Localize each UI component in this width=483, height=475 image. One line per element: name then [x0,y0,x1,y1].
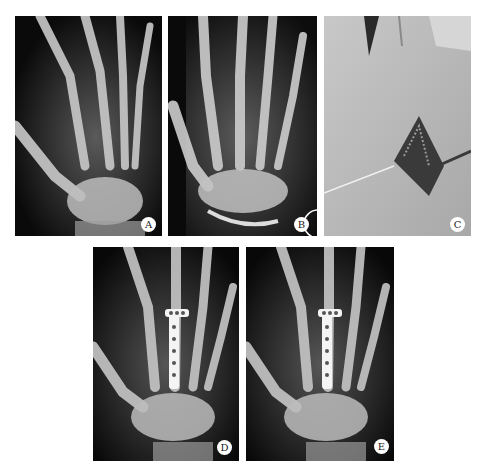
panel-d-radiograph: D [93,247,239,461]
panel-b-radiograph: B [168,16,317,236]
hand-xray-ap-image [168,16,317,236]
panel-c-photograph: C [324,16,471,236]
panel-label-c: C [450,217,465,232]
hand-xray-oblique-image [15,16,162,236]
panel-e-radiograph: E [246,247,394,461]
panel-label-b: B [294,217,309,232]
panel-a-radiograph: A [15,16,162,236]
panel-label-a: A [141,217,156,232]
surgical-incision-photo [324,16,471,236]
panel-label-e: E [374,439,389,454]
hand-xray-postop-image [93,247,239,461]
hand-xray-followup-image [246,247,394,461]
panel-label-d: D [217,440,232,455]
